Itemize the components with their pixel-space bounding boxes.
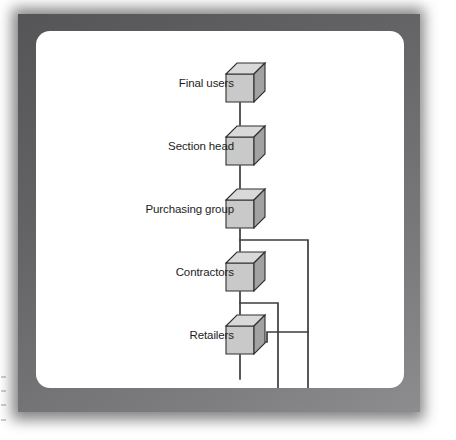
node-label-contractors: Contractors [66,266,234,279]
node-label-section-head: Section head [66,140,234,153]
node-label-purchasing-group: Purchasing group [66,203,234,216]
node-label-final-users: Final users [66,77,234,90]
page-edge-artifacts [0,372,9,434]
diagram-canvas: Final users Section head Purchasing grou… [36,31,404,388]
figure-root: Final users Section head Purchasing grou… [0,0,456,440]
node-label-retailers: Retailers [66,329,234,342]
